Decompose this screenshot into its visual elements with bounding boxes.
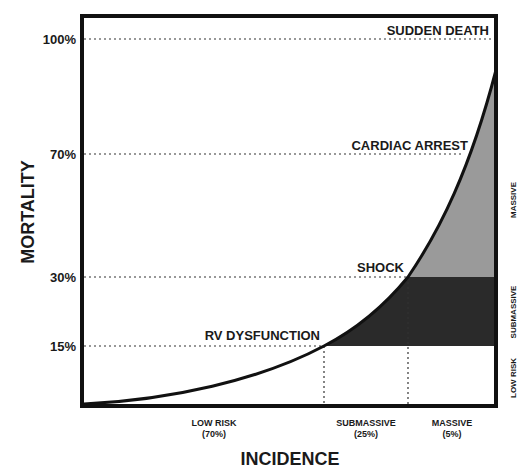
right-label-low-risk: LOW RISK: [509, 358, 518, 398]
x-cat-massive: MASSIVE: [432, 418, 473, 428]
x-cat-massive-pct: (5%): [442, 429, 461, 439]
y-tick-15: 15%: [50, 339, 76, 354]
x-cat-low-risk-pct: (70%): [202, 429, 226, 439]
massive-band-fill: [408, 70, 496, 277]
x-cat-submassive: SUBMASSIVE: [336, 418, 396, 428]
right-label-massive: MASSIVE: [509, 181, 518, 218]
right-label-submassive: SUBMASSIVE: [509, 285, 518, 339]
y-tick-70: 70%: [50, 147, 76, 162]
annotation-shock: SHOCK: [357, 260, 405, 275]
x-cat-submassive-pct: (25%): [354, 429, 378, 439]
annotation-sudden-death: SUDDEN DEATH: [387, 23, 489, 38]
x-axis-label: INCIDENCE: [240, 449, 339, 469]
mortality-curve: [84, 70, 496, 404]
gridlines: [84, 39, 494, 405]
y-tick-100: 100%: [43, 32, 77, 47]
annotation-cardiac-arrest: CARDIAC ARREST: [351, 138, 468, 153]
submassive-band-fill: [324, 277, 496, 346]
x-cat-low-risk: LOW RISK: [192, 418, 237, 428]
annotation-rv-dysfunction: RV DYSFUNCTION: [205, 328, 320, 343]
y-axis-label: MORTALITY: [18, 160, 38, 264]
mortality-incidence-chart: 100% 70% 30% 15% MORTALITY SUDDEN DEATH …: [0, 0, 530, 476]
plot-frame: [82, 16, 496, 406]
y-tick-30: 30%: [50, 270, 76, 285]
